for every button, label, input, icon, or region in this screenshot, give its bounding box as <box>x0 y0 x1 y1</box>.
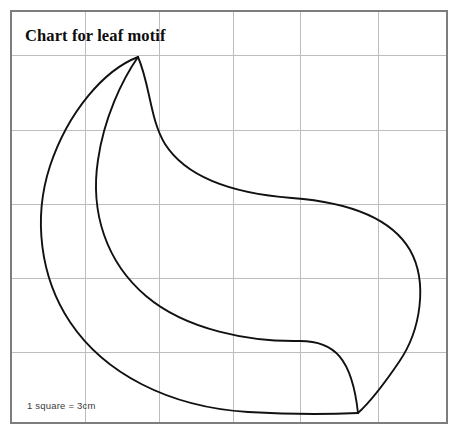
page-background <box>0 0 458 434</box>
scale-note: 1 square = 3cm <box>27 400 96 411</box>
leaf-motif-chart: Chart for leaf motif 1 square = 3cm <box>0 0 458 434</box>
chart-container: Chart for leaf motif 1 square = 3cm <box>0 0 458 434</box>
page-title: Chart for leaf motif <box>25 26 166 45</box>
